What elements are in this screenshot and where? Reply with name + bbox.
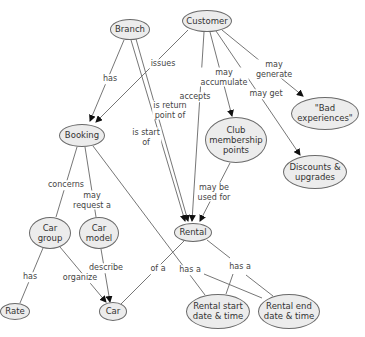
node-rental[interactable]: Rental bbox=[174, 223, 212, 242]
link-label-may-get: may get bbox=[248, 89, 283, 99]
node-customer[interactable]: Customer bbox=[182, 10, 232, 32]
node-rental-end-date-time[interactable]: Rental end date & time bbox=[258, 294, 320, 329]
link-label-may-request-a: may request a bbox=[72, 191, 112, 210]
node-bad-experiences[interactable]: "Bad experiences" bbox=[291, 97, 359, 130]
concept-map: Branch Customer Booking Club membership … bbox=[0, 0, 365, 337]
link-label-is-return-point-of: is return point of bbox=[152, 101, 187, 120]
link-label-cargroup-has-rate: has bbox=[22, 272, 38, 282]
link-label-may-generate: may generate bbox=[255, 60, 293, 79]
link-label-organize: organize bbox=[62, 273, 98, 283]
link-label-issues: issues bbox=[150, 59, 177, 69]
node-car-model[interactable]: Car model bbox=[79, 217, 119, 249]
node-car-group[interactable]: Car group bbox=[29, 217, 71, 249]
link-label-may-accumulate: may accumulate bbox=[200, 68, 249, 87]
link-label-rental-has-a: has a bbox=[228, 262, 252, 272]
link-label-of-a: of a bbox=[149, 264, 166, 274]
node-club-membership-points[interactable]: Club membership points bbox=[205, 117, 267, 163]
link-label-concerns: concerns bbox=[47, 180, 85, 190]
link-label-booking-has-a: has a bbox=[178, 265, 202, 275]
node-discounts-upgrades[interactable]: Discounts & upgrades bbox=[283, 155, 347, 189]
link-label-describe: describe bbox=[88, 263, 124, 273]
node-rate[interactable]: Rate bbox=[0, 303, 30, 320]
link-label-may-be-used-for: may be used for bbox=[197, 183, 232, 202]
node-branch[interactable]: Branch bbox=[110, 19, 150, 40]
node-booking[interactable]: Booking bbox=[59, 124, 105, 147]
link-label-branch-has-booking: has bbox=[102, 74, 118, 84]
node-car[interactable]: Car bbox=[99, 302, 127, 321]
node-rental-start-date-time[interactable]: Rental start date & time bbox=[186, 294, 250, 329]
link-label-is-start-of: is start of bbox=[131, 128, 161, 147]
link-label-accepts: accepts bbox=[178, 92, 211, 102]
